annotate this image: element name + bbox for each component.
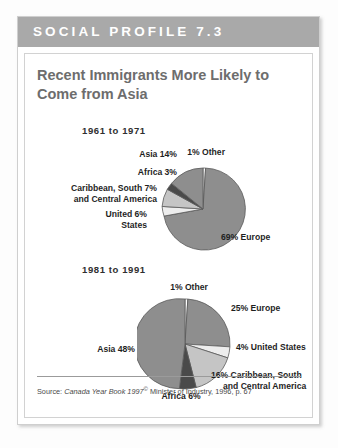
- source-note: Source: Canada Year Book 1997© Minister …: [37, 384, 305, 397]
- source-prefix: Source:: [37, 387, 64, 396]
- chart-2-period-label: 1981 to 1991: [82, 264, 146, 275]
- source-divider: [37, 376, 301, 377]
- chart-1-label-other: 1% Other: [171, 147, 225, 158]
- figure-frame: SOCIAL PROFILE 7.3 Recent Immigrants Mor…: [17, 16, 320, 425]
- chart-1-label-asia: Asia 14%: [115, 149, 177, 160]
- chart-1-label-united-states: United 6% States: [75, 209, 147, 230]
- chart-2-label-europe: 25% Europe: [231, 303, 307, 314]
- chart-1-label-united-states-line1: United 6%: [105, 209, 147, 219]
- chart-1-label-caribbean-line1: Caribbean, South 7%: [71, 183, 157, 193]
- chart-1-label-caribbean: Caribbean, South 7% and Central America: [35, 183, 157, 204]
- figure-title: Recent Immigrants More Likely to Come fr…: [37, 66, 299, 104]
- chart-1-label-europe: 69% Europe: [221, 232, 301, 243]
- chart-1-label-africa: Africa 3%: [113, 167, 177, 178]
- chart-1-label-united-states-line2: States: [121, 220, 147, 230]
- chart-2-label-asia: Asia 48%: [77, 344, 135, 355]
- chart-2-label-caribbean-line1: 16% Caribbean, South: [211, 370, 302, 380]
- source-rest: Minister of Industry, 1996, p. 67: [148, 387, 252, 396]
- chart-2-label-united-states: 4% United States: [236, 342, 316, 353]
- chart-2-label-other: 1% Other: [151, 282, 227, 293]
- page-root: SOCIAL PROFILE 7.3 Recent Immigrants Mor…: [0, 0, 338, 448]
- chart-1-period-label: 1961 to 1971: [82, 125, 146, 136]
- chart-1-label-caribbean-line2: and Central America: [74, 194, 157, 204]
- banner-title: SOCIAL PROFILE 7.3: [33, 24, 224, 39]
- source-publication: Canada Year Book 1997: [64, 387, 143, 396]
- chart-2-slice-europe: [185, 299, 230, 347]
- social-profile-banner: SOCIAL PROFILE 7.3: [18, 17, 319, 47]
- figure-panel: Recent Immigrants More Likely to Come fr…: [24, 53, 313, 418]
